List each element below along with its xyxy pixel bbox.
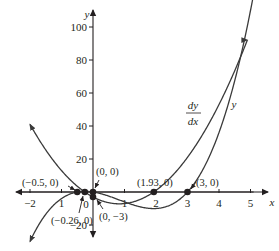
y-tick-label: 20 — [76, 153, 88, 165]
point-label: (0, 0) — [96, 166, 119, 178]
y-axis-label: y — [84, 8, 90, 20]
point-label: (0, −3) — [99, 211, 128, 223]
y-tick-label: 80 — [76, 54, 88, 66]
axes: xy−21012345−2020406080100 — [16, 8, 275, 237]
annotation-arrow — [95, 180, 99, 188]
point-label: (1.93, 0) — [137, 177, 173, 189]
plot-area: xy−21012345−2020406080100 ydydx(−0.5, 0)… — [0, 0, 279, 251]
point-label: (−0.5, 0) — [22, 177, 59, 189]
chart: xy−21012345−2020406080100 ydydx(−0.5, 0)… — [0, 0, 279, 251]
y-tick-label: 100 — [71, 21, 88, 33]
y-tick-label: 60 — [76, 87, 88, 99]
point-marker — [82, 189, 89, 196]
x-tick-label: 3 — [185, 197, 191, 209]
points — [74, 189, 191, 201]
x-tick-label: −2 — [24, 197, 36, 209]
x-tick-label: 4 — [216, 197, 222, 209]
label-dydx-top: dy — [188, 99, 199, 111]
curve-dydx — [112, 40, 247, 204]
point-marker — [150, 189, 157, 196]
x-tick-label: 0 — [83, 198, 89, 210]
annotation-arrow — [68, 186, 75, 190]
x-axis-label: x — [269, 196, 275, 208]
point-label: (−0.26, 0) — [51, 215, 93, 227]
x-tick-label: 2 — [153, 197, 159, 209]
point-marker — [184, 189, 191, 196]
y-tick-label: 40 — [76, 120, 88, 132]
point-marker — [90, 194, 97, 201]
label-y-curve: y — [231, 98, 237, 110]
curve-dydx-left — [30, 124, 112, 203]
x-tick-label: 5 — [248, 197, 254, 209]
point-label: (3, 0) — [196, 177, 219, 189]
label-dydx-bottom: dx — [188, 115, 199, 127]
